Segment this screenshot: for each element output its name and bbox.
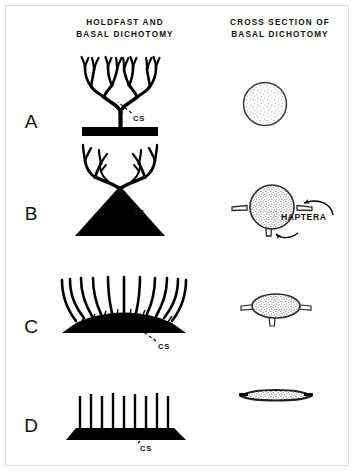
hapteron-right (297, 206, 312, 211)
panel-b-holdfast-diagram (75, 145, 165, 236)
panel-letter-c: C (18, 316, 44, 338)
figure-root: HOLDFAST AND BASAL DICHOTOMY CROSS SECTI… (0, 0, 354, 471)
panel-d-cs-body (241, 390, 311, 401)
panel-letter-a: A (18, 111, 44, 133)
cs-label-panel-a: CS (133, 114, 145, 123)
panel-b-holdfast-cone (75, 186, 165, 236)
panel-b-branches (83, 145, 157, 188)
panel-a-cross-section (244, 83, 287, 126)
haptera-label: HAPTERA (281, 212, 326, 222)
panel-a-holdfast-base (82, 127, 158, 136)
panel-b-cs-body (250, 185, 294, 229)
panel-letter-d: D (18, 415, 44, 437)
panel-d-holdfast-diagram (66, 393, 186, 443)
cs-label-panel-c: CS (158, 342, 170, 351)
column-header-cross-section: CROSS SECTION OF BASAL DICHOTOMY (212, 17, 348, 40)
panel-c-cs-body (252, 294, 300, 318)
column-header-holdfast-line2: BASAL DICHOTOMY (52, 29, 198, 41)
haptera-arrow-lower (276, 233, 298, 238)
panel-d-spines (80, 393, 168, 429)
panel-d-holdfast-crust (66, 428, 186, 440)
panel-c-cross-section (241, 294, 311, 326)
figure-illustration (0, 0, 354, 471)
panel-letter-b: B (18, 203, 44, 225)
panel-d-cross-section (239, 390, 313, 401)
hapteron-left (232, 206, 247, 211)
column-header-holdfast-line1: HOLDFAST AND (52, 17, 198, 29)
column-header-cross-section-line2: BASAL DICHOTOMY (212, 29, 348, 41)
column-header-holdfast: HOLDFAST AND BASAL DICHOTOMY (52, 17, 198, 40)
panel-c-holdfast-diagram (62, 277, 186, 341)
panel-a-holdfast-diagram (82, 57, 160, 136)
cs-label-panel-d: CS (140, 444, 152, 453)
column-header-cross-section-line1: CROSS SECTION OF (212, 17, 348, 29)
cs-label-panel-b: CS (133, 208, 145, 217)
